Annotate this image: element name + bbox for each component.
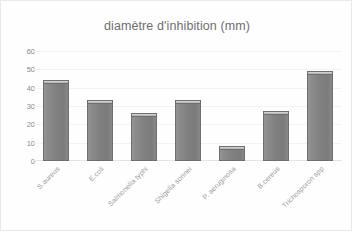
bar-slot <box>166 51 210 161</box>
x-label-slot: P. aeruginosa <box>210 163 254 227</box>
bar-highlight-cap <box>263 111 289 115</box>
bar-slot <box>254 51 298 161</box>
x-label-slot: S.aureus <box>34 163 78 227</box>
bar-highlight-cap <box>307 71 333 75</box>
bar[interactable] <box>219 150 245 161</box>
x-axis-category-label: S.aureus <box>36 165 61 190</box>
bar[interactable] <box>263 115 289 161</box>
y-axis-tick-label: 60 <box>11 47 35 56</box>
bar[interactable] <box>175 104 201 161</box>
bar-slot <box>78 51 122 161</box>
y-axis-tick-label: 40 <box>11 83 35 92</box>
bar[interactable] <box>87 104 113 161</box>
bar[interactable] <box>131 117 157 161</box>
bar-slot <box>122 51 166 161</box>
x-label-slot: Trichosporon spp <box>298 163 342 227</box>
bar-series <box>34 51 342 161</box>
bar-slot <box>298 51 342 161</box>
chart-title: diamètre d'inhibition (mm) <box>1 19 352 33</box>
plot-area <box>34 51 342 161</box>
x-axis-category-label: B.cereus <box>256 165 281 190</box>
bar-highlight-cap <box>219 146 245 150</box>
x-axis-category-labels: S.aureusE.coliSalmonella typhiShigella s… <box>34 163 342 227</box>
bar[interactable] <box>43 84 69 161</box>
chart-container: diamètre d'inhibition (mm) 6050403020100… <box>0 0 352 231</box>
y-axis-tick-label: 30 <box>11 102 35 111</box>
bar-highlight-cap <box>175 100 201 104</box>
bar-slot <box>210 51 254 161</box>
bar-highlight-cap <box>43 80 69 84</box>
bar-highlight-cap <box>131 113 157 117</box>
y-axis-tick-label: 20 <box>11 120 35 129</box>
y-axis-tick-label: 0 <box>11 157 35 166</box>
bar[interactable] <box>307 75 333 161</box>
x-axis-category-label: E.coli <box>87 165 104 182</box>
bar-slot <box>34 51 78 161</box>
y-axis-tick-label: 10 <box>11 138 35 147</box>
y-axis-tick-label: 50 <box>11 65 35 74</box>
bar-highlight-cap <box>87 100 113 104</box>
